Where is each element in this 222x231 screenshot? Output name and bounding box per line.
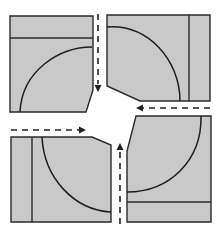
flow-right-arrowhead-icon [79,127,86,134]
flow-down-arrowhead-icon [95,85,102,92]
circulation-diagram [0,0,222,231]
flow-right [11,127,86,134]
flow-left [136,105,210,112]
flow-down [95,14,102,92]
flow-up-arrowhead-icon [117,143,124,150]
block-bottom-right [127,116,211,222]
block-top-right [107,15,210,101]
block-bottom-right-shape [127,116,211,222]
block-top-left [10,16,93,112]
block-bottom-left [11,137,111,222]
flow-up [117,143,124,224]
flow-left-arrowhead-icon [136,105,143,112]
